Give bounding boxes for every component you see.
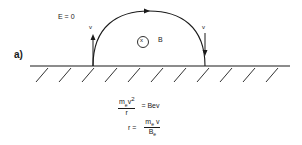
velocity-left-label: v (89, 24, 92, 30)
eq2-denominator: Be (144, 128, 160, 137)
electric-field-label: E = 0 (58, 13, 75, 20)
magnetic-field-label: B (158, 36, 163, 43)
arrowhead-up-icon (91, 34, 96, 40)
eq1-numerator: mev2 (118, 96, 135, 109)
eq2-numerator: me v (144, 118, 160, 128)
trajectory-arrow-icon (144, 9, 150, 14)
force-balance-equation: mev2 r = Bev (118, 96, 160, 116)
part-label: a) (14, 49, 23, 60)
trajectory-arc (93, 11, 205, 66)
eq1-denominator: r (118, 109, 135, 116)
velocity-right-label: v (202, 24, 205, 30)
eq1-fraction: mev2 r (118, 96, 135, 116)
arrowhead-down-icon (203, 50, 208, 56)
eq1-rhs: = Bev (141, 102, 159, 109)
eq2-lhs: r = (128, 124, 136, 131)
radius-equation: r = me v Be (128, 118, 160, 138)
ground-hatching (36, 68, 278, 82)
eq2-fraction: me v Be (144, 118, 160, 138)
field-cross-symbol: x (140, 37, 143, 43)
